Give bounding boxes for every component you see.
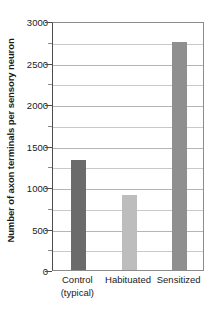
y-axis-major-tick [45, 105, 52, 106]
x-axis-tick-label: Habituated [105, 273, 151, 286]
x-axis-tick-label-line1: Control [61, 273, 94, 286]
y-axis-major-tick [45, 147, 52, 148]
bars-layer [53, 23, 203, 270]
bar-chart-figure: Number of axon terminals per sensory neu… [0, 0, 217, 311]
y-axis-major-tick [45, 188, 52, 189]
y-axis-title: Number of axon terminals per sensory neu… [0, 0, 20, 280]
y-axis-major-tick [45, 22, 52, 23]
x-axis-tick-label: Sensitized [157, 273, 201, 286]
y-axis-tick-labels: 050010001500200025003000 [18, 22, 48, 271]
bar [122, 195, 137, 270]
x-axis-tick-label-line2: (typical) [61, 286, 94, 299]
bar [172, 42, 187, 270]
x-axis-tick-label: Control(typical) [61, 273, 94, 299]
plot-area [52, 22, 204, 271]
x-axis-tick-labels: Control(typical)HabituatedSensitized [52, 273, 204, 309]
y-axis-title-text: Number of axon terminals per sensory neu… [5, 38, 16, 242]
y-axis-major-tick [45, 64, 52, 65]
y-axis-major-tick [45, 271, 52, 272]
x-axis-tick-label-line1: Habituated [105, 273, 151, 286]
y-axis-major-tick [45, 230, 52, 231]
x-axis-tick-label-line1: Sensitized [157, 273, 201, 286]
bar [71, 160, 86, 270]
